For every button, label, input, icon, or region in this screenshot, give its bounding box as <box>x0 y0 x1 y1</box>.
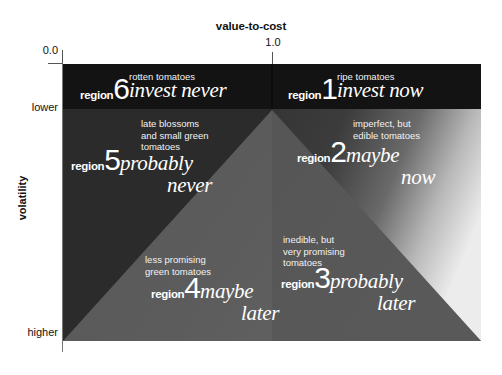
region-5-action-line-1: probably <box>120 151 193 175</box>
region-2-action-line-2: now <box>401 165 477 190</box>
region-5-label: region <box>71 160 104 172</box>
region-4-label: region <box>151 288 184 300</box>
region-2-block: imperfect, but edible tomatoes region2ma… <box>281 118 477 190</box>
region-2-number: 2 <box>330 135 346 168</box>
region-3-block: inedible, but very promising tomatoes re… <box>281 234 477 316</box>
origin-tick-horizontal <box>48 63 63 64</box>
x-axis-title: value-to-cost <box>0 20 502 32</box>
region-6-action: invest never <box>129 80 226 100</box>
region-5-caption-line-1: late blossoms <box>141 118 261 130</box>
region-2-label: region <box>297 152 330 164</box>
region-3-number: 3 <box>314 261 330 294</box>
header-band-divider <box>271 64 273 109</box>
x-axis-tick-origin: 0.0 <box>28 44 58 56</box>
plot-area: region6 rotten tomatoes invest never reg… <box>63 64 481 341</box>
region-4-number: 4 <box>184 271 200 304</box>
region-1-action: invest now <box>337 80 423 100</box>
region-5-block: late blossoms and small green tomatoes r… <box>71 118 261 198</box>
region-3-label: region <box>281 278 314 290</box>
region-1-block: region1 ripe tomatoes invest now <box>288 71 423 102</box>
region-3-caption-line-2: very promising <box>283 246 477 258</box>
x-axis-tick-1: 1.0 <box>253 36 293 48</box>
y-axis-title: volatility <box>16 153 28 243</box>
diagram-canvas: value-to-cost 1.0 0.0 volatility lower h… <box>0 0 502 375</box>
region-4-action-line-1: maybe <box>200 279 253 303</box>
region-2-caption-line-1: imperfect, but <box>353 118 477 130</box>
region-6-label: region <box>80 89 113 101</box>
y-axis-tick-higher: higher <box>8 326 58 338</box>
origin-tick-vertical <box>62 50 63 64</box>
region-6-block: region6 rotten tomatoes invest never <box>80 71 226 102</box>
region-6-number: 6 <box>113 72 129 105</box>
region-1-number: 1 <box>321 72 337 105</box>
region-3-action-line-2: later <box>377 291 477 316</box>
region-5-caption-line-2: and small green <box>141 130 261 142</box>
region-3-action-line-1: probably <box>330 269 403 293</box>
x-axis-tick-mark <box>272 52 273 64</box>
region-5-action-line-2: never <box>167 173 261 198</box>
region-5-number: 5 <box>104 143 120 176</box>
region-1-label: region <box>288 89 321 101</box>
region-3-caption-line-1: inedible, but <box>283 234 477 246</box>
y-axis-tick-lower: lower <box>8 101 58 113</box>
region-2-action-line-1: maybe <box>346 143 399 167</box>
